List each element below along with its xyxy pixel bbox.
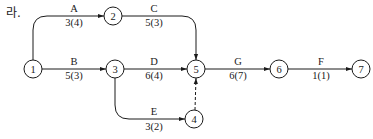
- node-3: 3: [106, 60, 124, 78]
- node-6: 6: [270, 60, 288, 78]
- node-4: 4: [185, 110, 203, 128]
- node-6-label: 6: [276, 64, 281, 75]
- edge-c-duration: 5(3): [145, 17, 163, 29]
- edge-dummy: [195, 78, 196, 110]
- node-7-label: 7: [358, 64, 363, 75]
- edge-a-duration: 3(4): [65, 17, 83, 29]
- edge-g-duration: 6(7): [229, 70, 247, 82]
- node-1-label: 1: [30, 64, 35, 75]
- node-2-label: 2: [110, 11, 115, 22]
- network-diagram: A 3(4) B 5(3) C 5(3) D 6(4) E 3(2) G 6(7…: [0, 0, 373, 139]
- edge-b-duration: 5(3): [65, 70, 83, 82]
- node-2: 2: [104, 7, 122, 25]
- node-3-label: 3: [112, 64, 117, 75]
- node-7: 7: [352, 60, 370, 78]
- node-4-label: 4: [191, 114, 197, 125]
- edge-e-duration: 3(2): [145, 121, 163, 133]
- edge-f-duration: 1(1): [312, 70, 330, 82]
- edge-b-name: B: [70, 56, 77, 67]
- edge-d-duration: 6(4): [145, 70, 163, 82]
- node-1: 1: [24, 60, 42, 78]
- edge-e-name: E: [151, 106, 157, 117]
- edge-g-name: G: [234, 56, 242, 67]
- node-5-label: 5: [193, 64, 198, 75]
- node-5: 5: [187, 60, 205, 78]
- edge-c-name: C: [150, 3, 157, 14]
- edge-f-name: F: [318, 56, 324, 67]
- edge-a-name: A: [70, 3, 78, 14]
- edge-d-name: D: [150, 56, 158, 67]
